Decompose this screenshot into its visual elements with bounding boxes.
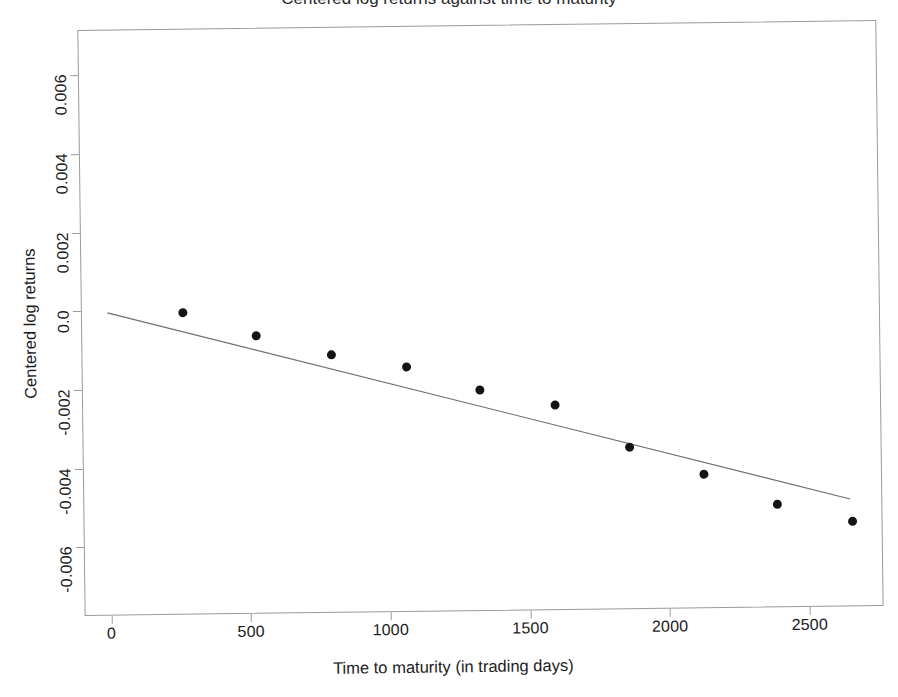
fitted-line: [77, 20, 883, 616]
x-axis-tick: [111, 616, 112, 624]
y-axis-tick: [72, 233, 80, 234]
y-axis-tick-label: 0.0: [55, 310, 73, 333]
data-point: [625, 443, 634, 452]
y-axis-tick-label: 0.002: [54, 232, 73, 273]
x-axis-tick: [810, 607, 811, 615]
data-point: [773, 500, 782, 509]
x-axis-tick-label: 500: [237, 623, 265, 641]
x-axis-tick: [530, 610, 531, 618]
x-axis-title: Time to maturity (in trading days): [333, 656, 574, 678]
y-axis-tick: [76, 547, 84, 548]
x-axis-tick: [251, 614, 252, 622]
y-axis-tick: [71, 154, 79, 155]
data-point: [402, 363, 411, 372]
data-point: [178, 309, 187, 318]
y-axis-tick: [73, 311, 81, 312]
data-point: [327, 350, 336, 359]
x-axis-tick-label: 0: [107, 625, 116, 643]
y-axis-tick-label: -0.004: [57, 468, 76, 515]
x-axis-tick: [391, 612, 392, 620]
data-point: [848, 516, 857, 525]
data-point: [252, 331, 261, 340]
x-axis-tick-label: 1500: [512, 619, 549, 637]
y-axis-tick-label: -0.002: [56, 389, 75, 436]
y-axis-tick: [75, 469, 83, 470]
y-axis-tick-label: 0.006: [52, 74, 71, 115]
y-axis-tick: [70, 75, 78, 76]
y-axis-tick: [74, 390, 82, 391]
y-axis-tick-label: 0.004: [53, 153, 72, 194]
y-axis-tick-label: -0.006: [58, 546, 77, 593]
x-axis-tick: [670, 609, 671, 617]
data-point: [550, 401, 559, 410]
figure-canvas: Centered log returns against time to mat…: [0, 0, 898, 697]
data-point: [475, 385, 484, 394]
y-axis-title: Centered log returns: [19, 174, 42, 474]
plot-rotation-layer: 050010001500200025000.0060.0040.0020.0-0…: [0, 0, 898, 697]
data-point: [699, 470, 708, 479]
x-axis-tick-label: 2000: [652, 617, 689, 635]
x-axis-tick-label: 2500: [791, 616, 828, 634]
x-axis-tick-label: 1000: [372, 621, 409, 639]
data-layer: [77, 20, 883, 616]
